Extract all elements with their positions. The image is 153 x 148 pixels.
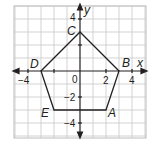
x-tick-4: 4 bbox=[129, 75, 135, 86]
origin-label: 0 bbox=[72, 74, 78, 85]
x-axis-label: x bbox=[136, 56, 144, 70]
vertex-label-e: E bbox=[41, 106, 50, 120]
x-tick-neg4: −4 bbox=[18, 75, 30, 86]
y-tick-neg4: −4 bbox=[64, 118, 76, 129]
x-tick-2: 2 bbox=[103, 75, 109, 86]
coordinate-plane: y x −4 0 2 4 4 −2 −4 A B C D E bbox=[0, 0, 153, 148]
vertex-label-b: B bbox=[122, 56, 130, 70]
y-axis-label: y bbox=[83, 3, 91, 17]
y-axis-up-arrow-icon bbox=[78, 4, 83, 10]
vertex-label-d: D bbox=[30, 57, 39, 71]
vertex-label-c: C bbox=[67, 24, 76, 38]
y-tick-4: 4 bbox=[70, 12, 76, 23]
y-tick-neg2: −2 bbox=[64, 92, 76, 103]
vertex-label-a: A bbox=[107, 106, 116, 120]
